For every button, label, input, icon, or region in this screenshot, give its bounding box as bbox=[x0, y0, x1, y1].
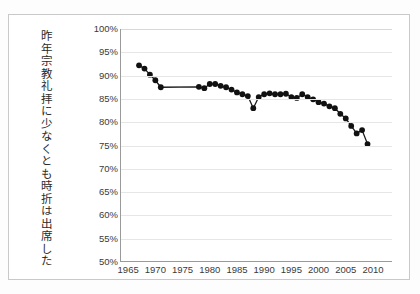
data-point-marker bbox=[359, 127, 365, 133]
y-tick-label: 60% bbox=[99, 209, 118, 220]
data-point-marker bbox=[337, 111, 343, 117]
data-point-marker bbox=[299, 91, 305, 97]
x-tick-label: 1995 bbox=[281, 264, 302, 275]
y-tick-label: 85% bbox=[99, 93, 118, 104]
data-point-marker bbox=[196, 84, 202, 90]
data-point-marker bbox=[142, 66, 148, 72]
data-point-marker bbox=[218, 83, 224, 89]
data-point-marker bbox=[354, 130, 360, 136]
data-point-marker bbox=[272, 91, 278, 97]
y-axis-title: 昨年宗教礼拝に少なくとも時折は出席した bbox=[26, 30, 52, 270]
y-tick-label: 90% bbox=[99, 70, 118, 81]
data-point-marker bbox=[201, 85, 207, 91]
gridline bbox=[120, 146, 392, 147]
x-tick-label: 2010 bbox=[362, 264, 383, 275]
gridline bbox=[120, 99, 392, 100]
data-point-marker bbox=[321, 101, 327, 107]
y-tick-label: 95% bbox=[99, 46, 118, 57]
gridline bbox=[120, 122, 392, 123]
data-point-marker bbox=[136, 62, 142, 68]
data-point-marker bbox=[316, 99, 322, 105]
series-line bbox=[139, 65, 367, 144]
y-tick-label: 70% bbox=[99, 163, 118, 174]
chart-screenshot: 昨年宗教礼拝に少なくとも時折は出席した 100%95%90%85%80%75%7… bbox=[0, 0, 420, 294]
data-point-marker bbox=[240, 91, 246, 97]
data-point-marker bbox=[261, 91, 267, 97]
data-point-marker bbox=[212, 81, 218, 87]
x-tick-label: 1970 bbox=[145, 264, 166, 275]
x-tick-label: 1985 bbox=[226, 264, 247, 275]
gridline bbox=[120, 239, 392, 240]
gridline bbox=[120, 192, 392, 193]
data-point-marker bbox=[343, 116, 349, 122]
data-point-marker bbox=[223, 84, 229, 90]
plot-area bbox=[120, 29, 392, 262]
x-tick-label: 2000 bbox=[308, 264, 329, 275]
y-tick-label: 100% bbox=[94, 23, 118, 34]
gridline bbox=[120, 52, 392, 53]
x-tick-label: 1975 bbox=[172, 264, 193, 275]
data-point-marker bbox=[348, 123, 354, 129]
y-tick-label: 75% bbox=[99, 140, 118, 151]
data-point-marker bbox=[229, 87, 235, 93]
data-point-marker bbox=[152, 77, 158, 83]
x-tick-label: 1990 bbox=[254, 264, 275, 275]
y-tick-label: 65% bbox=[99, 186, 118, 197]
data-point-marker bbox=[250, 105, 256, 111]
data-point-marker bbox=[207, 81, 213, 87]
x-tick-label: 1980 bbox=[199, 264, 220, 275]
gridline bbox=[120, 215, 392, 216]
y-axis-tick-labels: 100%95%90%85%80%75%70%65%60%55%50% bbox=[84, 22, 118, 270]
x-axis-tick-labels: 1965197019751980198519901995200020052010 bbox=[120, 264, 402, 280]
data-point-marker bbox=[332, 105, 338, 111]
y-tick-label: 80% bbox=[99, 116, 118, 127]
y-tick-label: 50% bbox=[99, 256, 118, 267]
data-point-marker bbox=[234, 89, 240, 95]
data-point-marker bbox=[278, 91, 284, 97]
data-point-marker bbox=[327, 103, 333, 109]
data-point-marker bbox=[267, 90, 273, 96]
gridline bbox=[120, 169, 392, 170]
data-point-marker bbox=[283, 91, 289, 97]
gridline bbox=[120, 29, 392, 30]
y-tick-label: 55% bbox=[99, 233, 118, 244]
x-tick-label: 2005 bbox=[335, 264, 356, 275]
gridline bbox=[120, 76, 392, 77]
x-tick-label: 1965 bbox=[118, 264, 139, 275]
data-point-marker bbox=[158, 84, 164, 90]
